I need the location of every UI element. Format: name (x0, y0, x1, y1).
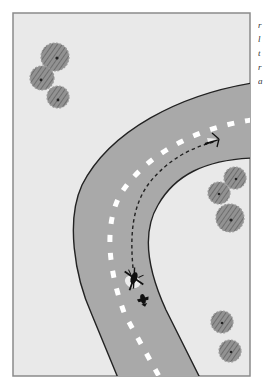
clipped-caption-text: r l t r a (258, 18, 268, 88)
tree-icon (208, 182, 230, 204)
clipped-char: l (258, 32, 268, 46)
tree-icon (219, 340, 241, 362)
clipped-char: r (258, 18, 268, 32)
road-diagram (0, 0, 268, 388)
clipped-char: a (258, 74, 268, 88)
tree-icon (47, 86, 69, 108)
tree-icon (216, 204, 244, 232)
figure-canvas: r l t r a (0, 0, 268, 388)
tree-icon (211, 311, 233, 333)
clipped-char: r (258, 60, 268, 74)
tree-icon (30, 66, 54, 90)
clipped-char: t (258, 46, 268, 60)
